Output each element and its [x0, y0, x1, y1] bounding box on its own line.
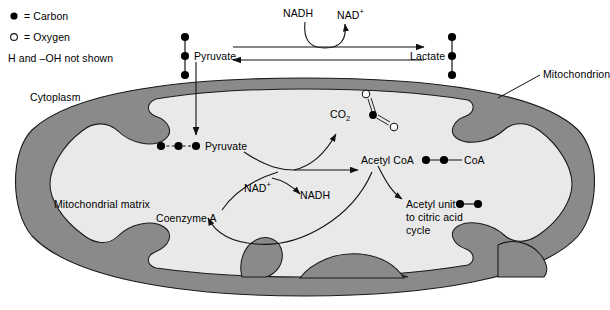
co2-text: CO [330, 108, 346, 120]
molecule-lactate [448, 33, 456, 79]
legend-oxygen-icon [11, 34, 18, 41]
nad-plus-mid-label: NAD+ [244, 180, 271, 195]
molecule-pyruvate-matrix [157, 142, 200, 150]
nadh-top-label: NADH [283, 7, 313, 20]
pyruvate-matrix-label: Pyruvate [205, 140, 247, 153]
acetyl-unit-line-1: Acetyl unit [406, 198, 463, 211]
diagram-vector-layer [0, 0, 610, 310]
mitochondrion-label: Mitochondrion [543, 68, 610, 81]
nad-plus-top-text: NAD [337, 9, 359, 21]
co2-subscript: 2 [346, 114, 350, 123]
co2-label: CO2 [330, 108, 350, 123]
lactate-label: Lactate [410, 50, 445, 63]
molecule-pyruvate-cytoplasm [181, 33, 189, 79]
nad-plus-top-superscript: + [359, 7, 363, 16]
acetyl-unit-block: Acetyl unit to citric acid cycle [406, 198, 463, 236]
coenzyme-a-label: Coenzyme A [156, 212, 217, 225]
legend-carbon-icon [10, 12, 17, 19]
cytoplasm-label: Cytoplasm [30, 91, 81, 104]
mitochondrion-leader-line [498, 75, 540, 98]
nad-plus-top-label: NAD+ [337, 7, 364, 22]
diagram-canvas: = Carbon = Oxygen H and –OH not shown Py… [0, 0, 610, 310]
acetyl-coa-label: Acetyl CoA [361, 154, 414, 167]
legend-note-label: H and –OH not shown [8, 52, 113, 65]
nad-plus-mid-superscript: + [266, 180, 270, 189]
acetyl-unit-line-2: to citric acid [406, 211, 463, 224]
coa-tag-label: CoA [464, 154, 485, 167]
arrow-nadh-to-nad-plus [305, 22, 346, 48]
nad-plus-mid-text: NAD [244, 182, 266, 194]
legend-oxygen-label: = Oxygen [24, 31, 70, 44]
acetyl-unit-line-3: cycle [406, 224, 463, 237]
nadh-mid-label: NADH [300, 189, 330, 202]
pyruvate-cytoplasm-label: Pyruvate [194, 50, 236, 63]
mitochondrial-matrix-label: Mitochondrial matrix [54, 198, 150, 211]
legend-carbon-label: = Carbon [24, 10, 68, 23]
